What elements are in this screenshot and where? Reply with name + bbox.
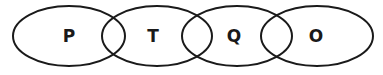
- label-p: P: [63, 26, 75, 46]
- label-q: Q: [227, 26, 241, 46]
- label-t: T: [147, 26, 159, 46]
- label-o: O: [309, 26, 323, 46]
- venn-diagram: P T Q O: [0, 0, 383, 75]
